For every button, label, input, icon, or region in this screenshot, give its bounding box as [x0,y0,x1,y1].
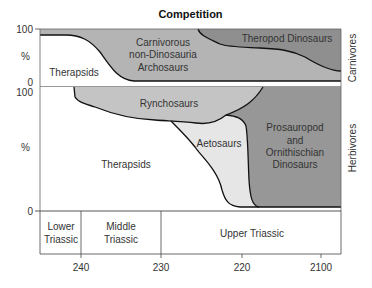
prosauropod-label-3: Ornithischian [266,147,324,158]
prosauropod-label-4: Dinosaurs [272,159,317,170]
carnivores-panel: Therapsids Carnivorous non-Dinosauria Ar… [16,24,358,88]
chart-svg: Therapsids Carnivorous non-Dinosauria Ar… [0,0,372,288]
lower-triassic-line1: Lower [47,221,75,232]
herbivores-side-label: Herbivores [347,124,358,172]
archosaurs-label-2: non-Dinosauria [129,49,197,60]
rynchosaurs-label: Rynchosaurs [140,98,198,109]
upper-triassic-label: Upper Triassic [220,228,284,239]
middle-triassic-line2: Triassic [104,234,138,245]
x-tick-2100: 2100 [310,262,333,273]
aetosaurs-label: Aetosaurs [196,138,241,149]
carnivore-y-100: 100 [16,24,33,35]
archosaurs-label-1: Carnivorous [136,37,190,48]
carnivore-therapsids-label: Therapsids [49,67,98,78]
herbivore-y-percent: % [21,142,30,153]
herbivore-y-100: 100 [16,87,33,98]
carnivores-side-label: Carnivores [347,34,358,82]
middle-triassic-line1: Middle [106,221,136,232]
prosauropod-label-1: Prosauropod [266,122,323,133]
herbivore-therapsids-label: Therapsids [101,159,150,170]
prosauropod-label-2: and [287,135,304,146]
period-band: Lower Triassic Middle Triassic Upper Tri… [40,211,341,273]
herbivore-y-0: 0 [27,206,33,217]
lower-triassic-line2: Triassic [44,234,78,245]
herbivores-panel: Rynchosaurs Aetosaurs Therapsids Prosaur… [16,87,358,217]
carnivore-y-percent: % [21,51,30,62]
archosaurs-label-3: Archosaurs [138,62,189,73]
theropods-label: Theropod Dinosaurs [242,33,333,44]
x-tick-220: 220 [234,262,251,273]
x-tick-230: 230 [153,262,170,273]
x-tick-240: 240 [73,262,90,273]
